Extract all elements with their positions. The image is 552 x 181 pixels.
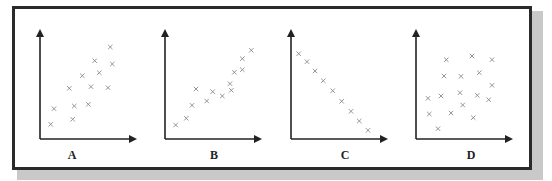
panel-label-c: C <box>330 148 360 163</box>
cross-marker-icon <box>108 45 112 49</box>
y-axis-arrow-icon <box>161 29 169 37</box>
panel-label-b: B <box>199 148 229 163</box>
y-axis-arrow-icon <box>412 29 420 37</box>
cross-marker-icon <box>490 58 494 62</box>
cross-marker-icon <box>349 109 353 113</box>
y-axis-arrow-icon <box>287 29 295 37</box>
cross-marker-icon <box>366 128 370 132</box>
cross-marker-icon <box>194 87 198 91</box>
x-axis-arrow-icon <box>380 135 388 143</box>
cross-marker-icon <box>106 86 110 90</box>
y-axis-arrow-icon <box>36 29 44 37</box>
cross-marker-icon <box>89 85 93 89</box>
cross-marker-icon <box>72 104 76 108</box>
cross-marker-icon <box>340 99 344 103</box>
cross-marker-icon <box>190 103 194 107</box>
cross-marker-icon <box>458 91 462 95</box>
cross-marker-icon <box>487 98 491 102</box>
cross-marker-icon <box>249 48 253 52</box>
x-axis-arrow-icon <box>254 135 262 143</box>
cross-marker-icon <box>49 122 53 126</box>
cross-marker-icon <box>439 94 443 98</box>
cross-marker-icon <box>470 54 474 58</box>
cross-marker-icon <box>313 69 317 73</box>
cross-marker-icon <box>449 111 453 115</box>
panel-label-a: A <box>57 148 87 163</box>
cross-marker-icon <box>52 107 56 111</box>
cross-marker-icon <box>71 117 75 121</box>
cross-marker-icon <box>490 83 494 87</box>
cross-marker-icon <box>93 59 97 63</box>
x-axis-arrow-icon <box>505 135 513 143</box>
cross-marker-icon <box>240 68 244 72</box>
cross-marker-icon <box>240 57 244 61</box>
cross-marker-icon <box>459 74 463 78</box>
cross-marker-icon <box>232 70 236 74</box>
cross-marker-icon <box>357 119 361 123</box>
cross-marker-icon <box>205 99 209 103</box>
cross-marker-icon <box>80 74 84 78</box>
cross-marker-icon <box>228 82 232 86</box>
cross-marker-icon <box>220 94 224 98</box>
cross-marker-icon <box>174 123 178 127</box>
cross-marker-icon <box>444 58 448 62</box>
cross-marker-icon <box>442 74 446 78</box>
cross-marker-icon <box>331 89 335 93</box>
cross-marker-icon <box>229 88 233 92</box>
cross-marker-icon <box>427 112 431 116</box>
cross-marker-icon <box>426 96 430 100</box>
cross-marker-icon <box>67 86 71 90</box>
cross-marker-icon <box>97 71 101 75</box>
cross-marker-icon <box>461 103 465 107</box>
cross-marker-icon <box>184 116 188 120</box>
panel-label-d: D <box>456 148 486 163</box>
cross-marker-icon <box>211 90 215 94</box>
cross-marker-icon <box>471 116 475 120</box>
cross-marker-icon <box>86 102 90 106</box>
x-axis-arrow-icon <box>129 135 137 143</box>
cross-marker-icon <box>110 62 114 66</box>
cross-marker-icon <box>475 93 479 97</box>
cross-marker-icon <box>477 71 481 75</box>
cross-marker-icon <box>321 79 325 83</box>
cross-marker-icon <box>297 52 301 56</box>
cross-marker-icon <box>305 60 309 64</box>
cross-marker-icon <box>436 127 440 131</box>
